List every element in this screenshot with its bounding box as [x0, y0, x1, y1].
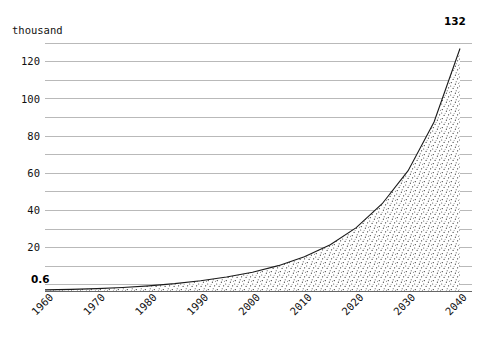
x-tick-label-1970: 1970 — [81, 291, 107, 317]
y-tick-label-20: 20 — [27, 241, 40, 253]
x-tick-labels-group: 1960 1970 1980 1990 2000 2010 2020 2030 … — [29, 291, 469, 317]
x-tick-label-2040: 2040 — [443, 291, 469, 317]
y-axis-unit-label: thousand — [12, 24, 63, 36]
x-tick-label-1960: 1960 — [29, 291, 55, 317]
chart-container: thousand 120 100 80 60 40 20 0.6 132 196… — [0, 0, 490, 341]
x-tick-label-2010: 2010 — [288, 291, 314, 317]
y-tick-labels-group: 120 100 80 60 40 20 — [21, 55, 40, 253]
y-tick-label-60: 60 — [27, 167, 40, 179]
series-area-group — [45, 49, 460, 291]
x-tick-label-1990: 1990 — [184, 291, 210, 317]
x-tick-label-2030: 2030 — [391, 291, 417, 317]
y-tick-label-100: 100 — [21, 93, 40, 105]
x-tick-label-2020: 2020 — [339, 291, 365, 317]
exponential-growth-area-chart: thousand 120 100 80 60 40 20 0.6 132 196… — [0, 0, 490, 341]
start-value-label: 0.6 — [31, 273, 50, 285]
y-tick-label-80: 80 — [27, 130, 40, 142]
y-tick-label-40: 40 — [27, 204, 40, 216]
x-tick-label-1980: 1980 — [132, 291, 158, 317]
x-tick-label-2000: 2000 — [236, 291, 262, 317]
area-fill-stipple — [45, 49, 460, 291]
end-value-label: 132 — [444, 15, 466, 27]
y-tick-label-120: 120 — [21, 55, 40, 67]
